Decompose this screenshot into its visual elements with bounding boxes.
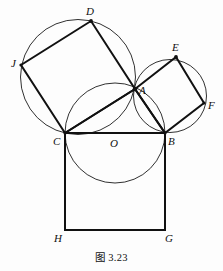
label-j: J (11, 58, 16, 69)
vertex-d-dot (89, 19, 93, 23)
label-g: G (165, 233, 173, 244)
vertex-b-dot (163, 131, 166, 134)
circle-aefb (134, 60, 207, 133)
label-f: F (208, 100, 215, 111)
vertex-c-dot (63, 131, 66, 134)
square-cjda (21, 21, 135, 133)
label-o: O (110, 138, 118, 149)
label-h: H (54, 233, 62, 244)
geometry-figure: D J E A F C O B H G 图 3.23 (0, 0, 223, 271)
vertex-a-dot (133, 87, 138, 92)
label-b: B (168, 136, 175, 147)
circle-cjda (21, 20, 136, 135)
vertex-f-dot (202, 101, 205, 104)
label-c: C (53, 136, 60, 147)
figure-caption: 图 3.23 (0, 249, 223, 264)
vertex-j-dot (19, 63, 22, 66)
label-a: A (139, 85, 146, 96)
vertex-e-dot (174, 55, 178, 59)
label-e: E (172, 42, 179, 53)
label-d: D (86, 6, 94, 17)
geometry-canvas (0, 0, 223, 271)
